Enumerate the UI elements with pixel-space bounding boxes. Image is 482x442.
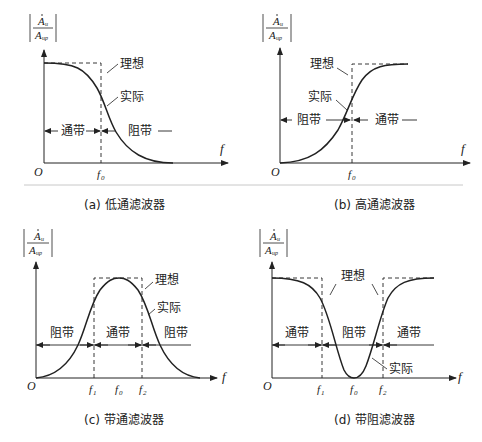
caption-c: (c) 带通滤波器 — [84, 413, 164, 427]
svg-text:A: A — [268, 29, 276, 41]
filter-response-figure: A u A up f O 理想 实际 通带 阻带 f 0 (a) 低通滤波器 — [0, 0, 482, 442]
passband-label: 通带 — [61, 124, 85, 138]
svg-text:up: up — [272, 250, 278, 256]
svg-text:A: A — [37, 15, 45, 27]
svg-text:0: 0 — [101, 174, 105, 182]
ideal-label: 理想 — [310, 56, 334, 71]
passband-label-left: 通带 — [285, 326, 309, 340]
panel-b-highpass: A u A up f O 理想 实际 阻带 通带 f 0 (b) 高通滤波器 — [263, 14, 470, 212]
ideal-response — [44, 63, 101, 163]
ideal-label: 理想 — [155, 272, 179, 287]
svg-text:u: u — [41, 236, 44, 242]
svg-text:O: O — [27, 379, 36, 393]
stopband-label: 阻带 — [128, 124, 152, 138]
y-axis-label: A u A up — [263, 14, 291, 42]
panel-a-lowpass: A u A up f O 理想 实际 通带 阻带 f 0 (a) 低通滤波器 — [30, 14, 228, 212]
svg-text:A: A — [264, 244, 272, 256]
svg-text:O: O — [271, 165, 280, 179]
svg-text:0: 0 — [354, 389, 358, 397]
stopband-label-right: 阻带 — [164, 326, 188, 340]
x-axis-label: f — [220, 141, 226, 156]
y-axis-label: A u A up — [24, 229, 52, 257]
svg-text:f: f — [461, 141, 467, 156]
svg-text:f: f — [458, 369, 464, 384]
svg-text:f: f — [222, 369, 228, 384]
actual-label: 实际 — [157, 300, 181, 315]
svg-text:A: A — [28, 244, 36, 256]
svg-text:up: up — [276, 35, 282, 41]
caption-a: (a) 低通滤波器 — [84, 198, 165, 212]
ideal-label: 理想 — [341, 268, 365, 283]
stopband-label: 阻带 — [297, 113, 321, 127]
stopband-label: 阻带 — [342, 326, 366, 340]
svg-text:u: u — [277, 236, 280, 242]
panel-d-bandstop: A u A up f O 理想 实际 通带 阻带 通带 f 1 f 0 f 2 … — [260, 229, 464, 427]
actual-label: 实际 — [120, 89, 144, 104]
actual-label: 实际 — [389, 361, 413, 376]
svg-text:u: u — [280, 21, 283, 27]
actual-label: 实际 — [308, 89, 332, 104]
svg-text:u: u — [45, 21, 48, 27]
passband-label-right: 通带 — [397, 326, 421, 340]
caption-d: (d) 带阻滤波器 — [334, 413, 415, 427]
svg-text:A: A — [269, 230, 277, 242]
svg-text:1: 1 — [321, 389, 325, 397]
passband-label: 通带 — [375, 113, 399, 127]
actual-response — [44, 63, 173, 163]
svg-text:A: A — [272, 15, 280, 27]
origin-label: O — [34, 165, 43, 179]
svg-text:A: A — [34, 29, 42, 41]
ideal-label: 理想 — [120, 56, 144, 71]
svg-text:up: up — [42, 35, 48, 41]
svg-text:2: 2 — [143, 389, 147, 397]
svg-text:0: 0 — [119, 389, 123, 397]
svg-text:A: A — [33, 230, 41, 242]
caption-b: (b) 高通滤波器 — [334, 197, 415, 212]
svg-text:2: 2 — [383, 389, 387, 397]
panel-c-bandpass: A u A up f O 理想 实际 阻带 通带 阻带 f 1 f 0 f 2 … — [24, 229, 228, 427]
svg-text:up: up — [36, 250, 42, 256]
y-axis-label: A u A up — [260, 229, 287, 257]
svg-text:O: O — [263, 379, 272, 393]
y-axis-label: A u A up — [30, 14, 56, 42]
passband-label: 通带 — [106, 326, 130, 340]
svg-text:0: 0 — [352, 174, 356, 182]
svg-text:1: 1 — [93, 389, 97, 397]
stopband-label-left: 阻带 — [50, 326, 74, 340]
